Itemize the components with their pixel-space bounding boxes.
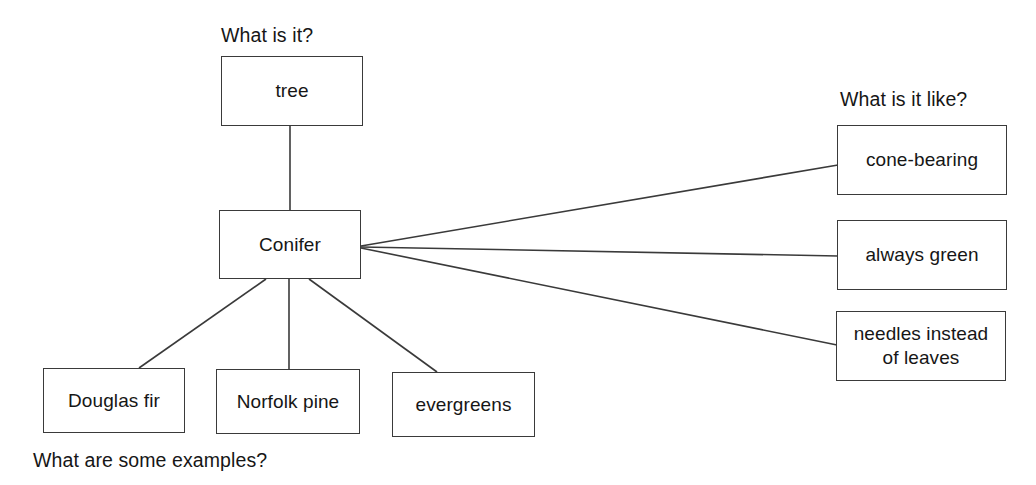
node-evergreens-label: evergreens	[409, 393, 517, 417]
node-douglas-fir-label: Douglas fir	[62, 389, 166, 413]
node-norfolk-pine-label: Norfolk pine	[231, 390, 346, 414]
concept-map-canvas: What is it? What is it like? What are so…	[0, 0, 1036, 485]
connector-conifer-to-green	[361, 247, 838, 256]
caption-what-is-it-like: What is it like?	[840, 88, 967, 111]
node-norfolk-pine[interactable]: Norfolk pine	[216, 369, 360, 434]
node-evergreens[interactable]: evergreens	[392, 372, 535, 437]
node-always-green[interactable]: always green	[837, 220, 1007, 290]
node-needles-instead-of-leaves[interactable]: needles instead of leaves	[836, 311, 1006, 381]
node-conifer-label: Conifer	[253, 233, 327, 257]
connector-conifer-to-evergreens	[309, 279, 437, 372]
node-always-green-label: always green	[859, 243, 984, 267]
node-cone-bearing-label: cone-bearing	[860, 148, 984, 172]
node-cone-bearing[interactable]: cone-bearing	[837, 125, 1007, 195]
node-tree[interactable]: tree	[221, 56, 363, 126]
node-conifer[interactable]: Conifer	[219, 210, 361, 279]
connector-conifer-to-douglas	[139, 279, 266, 368]
connector-conifer-to-needles	[361, 248, 837, 345]
caption-what-is-it: What is it?	[221, 24, 313, 47]
node-douglas-fir[interactable]: Douglas fir	[43, 368, 185, 433]
connector-conifer-to-cone	[361, 165, 838, 246]
node-tree-label: tree	[269, 79, 314, 103]
caption-what-are-some-examples: What are some examples?	[33, 449, 267, 472]
node-needles-instead-of-leaves-label: needles instead of leaves	[848, 322, 995, 369]
